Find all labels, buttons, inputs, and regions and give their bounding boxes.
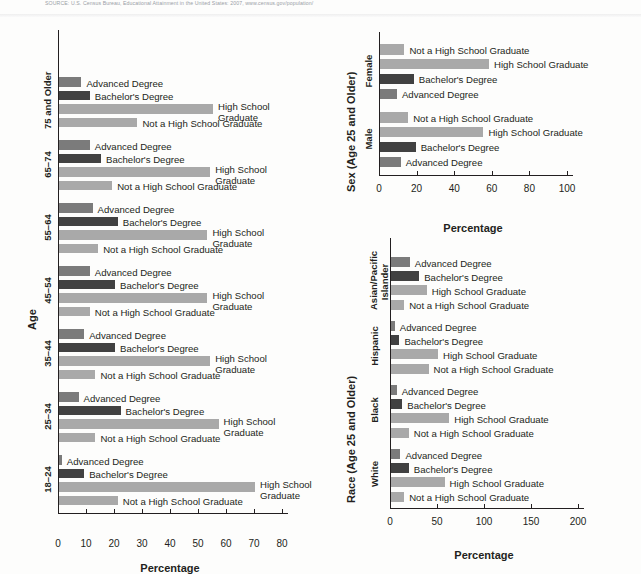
x-axis-tick-label: 20 — [403, 183, 431, 194]
x-axis-title: Percentage — [370, 549, 598, 561]
bar-label-bach: Bachelor's Degree — [123, 217, 202, 228]
bar-label-adv: Advanced Degree — [89, 330, 166, 341]
x-axis-tick — [254, 509, 255, 513]
x-axis-tick-label: 30 — [128, 538, 156, 549]
x-axis-tick — [454, 171, 455, 175]
bar-adv — [59, 140, 90, 150]
sex-chart-panel: 020406080100PercentageSex (Age 25 and Ol… — [335, 32, 641, 207]
bar-label-adv: Advanced Degree — [67, 456, 144, 467]
bar-nohs — [391, 364, 429, 374]
group-label: 75 and Older — [42, 74, 53, 129]
x-axis-tick — [529, 171, 530, 175]
x-axis-tick — [114, 509, 115, 513]
bar-label-hs: High SchoolGraduate — [212, 291, 272, 312]
bar-label-adv: Advanced Degree — [98, 204, 175, 215]
bar-hs — [391, 349, 438, 359]
bar-bach — [59, 217, 118, 227]
bar-label-bach: Bachelor's Degree — [419, 74, 498, 85]
x-axis-tick-label: 20 — [100, 538, 128, 549]
bar-bach — [391, 271, 419, 281]
bar-nohs — [59, 496, 118, 506]
bar-label-bach: Bachelor's Degree — [95, 91, 174, 102]
page-divider — [0, 14, 641, 17]
x-axis-line — [58, 513, 288, 514]
x-axis-tick-label: 40 — [440, 183, 468, 194]
group-label: White — [369, 446, 380, 502]
bar-adv — [391, 257, 410, 267]
x-axis-tick — [417, 171, 418, 175]
x-axis-tick — [484, 504, 485, 508]
bar-label-bach: Bachelor's Degree — [414, 464, 493, 475]
group-label: 25–34 — [42, 389, 53, 444]
bar-hs — [391, 477, 445, 487]
group-label: 65–74 — [42, 137, 53, 192]
x-axis-tick — [226, 509, 227, 513]
x-axis-tick-label: 60 — [478, 183, 506, 194]
bar-label-bach: Bachelor's Degree — [89, 469, 168, 480]
x-axis-line — [379, 175, 573, 176]
bar-nohs — [380, 44, 404, 55]
bar-label-nohs: Not a High School Graduate — [409, 45, 529, 56]
bar-label-hs: High School Graduate — [494, 59, 588, 70]
bar-nohs — [391, 428, 409, 438]
group-label: Female — [363, 41, 374, 101]
bar-adv — [380, 157, 401, 168]
bar-label-nohs: Not a High School Graduate — [123, 496, 243, 507]
x-axis-tick-label: 150 — [517, 516, 545, 527]
x-axis-tick-label: 60 — [212, 538, 240, 549]
bar-adv — [391, 321, 395, 331]
bar-hs — [59, 104, 213, 114]
bar-adv — [59, 392, 79, 402]
bar-label-hs: High SchoolGraduate — [260, 480, 320, 501]
bar-label-hs: High School Graduate — [450, 478, 544, 489]
bar-label-adv: Advanced Degree — [402, 89, 479, 100]
bar-label-adv: Advanced Degree — [402, 386, 479, 397]
bar-hs — [391, 285, 427, 295]
x-axis-tick — [86, 509, 87, 513]
bar-nohs — [59, 181, 112, 191]
bar-bach — [59, 91, 90, 101]
bar-label-nohs: Not a High School Graduate — [142, 118, 262, 129]
bar-label-bach: Bachelor's Degree — [106, 154, 185, 165]
bar-label-bach: Bachelor's Degree — [407, 400, 486, 411]
bar-bach — [380, 142, 416, 153]
bar-label-adv: Advanced Degree — [95, 141, 172, 152]
group-label: 35–44 — [42, 326, 53, 381]
bar-nohs — [391, 492, 404, 502]
bar-hs — [59, 419, 219, 429]
bar-label-hs: High School Graduate — [488, 127, 582, 138]
bar-label-bach: Bachelor's Degree — [424, 272, 503, 283]
bar-bach — [391, 463, 409, 473]
bar-bach — [59, 469, 84, 479]
x-axis-tick — [58, 509, 59, 513]
x-axis-tick-label: 10 — [72, 538, 100, 549]
bar-label-hs: High School Graduate — [432, 286, 526, 297]
x-axis-tick-label: 0 — [44, 538, 72, 549]
bar-label-adv: Advanced Degree — [406, 157, 483, 168]
bar-hs — [59, 167, 210, 177]
bar-label-adv: Advanced Degree — [86, 78, 163, 89]
bar-label-nohs: Not a High School Graduate — [117, 181, 237, 192]
x-axis-tick — [142, 509, 143, 513]
bar-label-adv: Advanced Degree — [415, 258, 492, 269]
x-axis-tick — [390, 504, 391, 508]
bar-label-adv: Advanced Degree — [405, 450, 482, 461]
bar-adv — [59, 455, 62, 465]
x-axis-tick — [567, 171, 568, 175]
bar-bach — [59, 154, 101, 164]
bar-adv — [59, 203, 93, 213]
x-axis-tick — [437, 504, 438, 508]
bar-label-hs: High SchoolGraduate — [215, 354, 275, 375]
bar-hs — [380, 59, 489, 70]
bar-adv — [59, 266, 90, 276]
bar-adv — [391, 449, 400, 459]
bar-label-nohs: Not a High School Graduate — [409, 300, 529, 311]
bar-label-nohs: Not a High School Graduate — [413, 113, 533, 124]
group-label: Black — [369, 382, 380, 438]
x-axis-tick-label: 70 — [240, 538, 268, 549]
bar-hs — [391, 413, 449, 423]
y-axis-title: Age — [26, 309, 38, 330]
bar-nohs — [59, 244, 98, 254]
bar-label-adv: Advanced Degree — [84, 393, 161, 404]
